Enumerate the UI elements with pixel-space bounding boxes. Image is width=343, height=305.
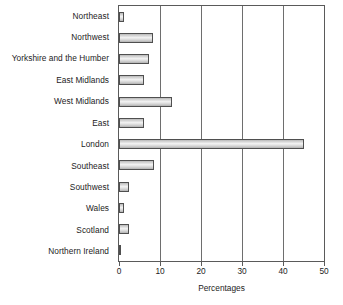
bar xyxy=(119,75,144,85)
category-label: London xyxy=(0,134,114,155)
value-axis: 01020304050 xyxy=(118,262,325,282)
category-label: Southeast xyxy=(0,155,114,176)
bar-row xyxy=(119,134,324,155)
bar-row xyxy=(119,219,324,240)
bar xyxy=(119,97,172,107)
bar xyxy=(119,203,124,213)
category-label: Yorkshire and the Humber xyxy=(0,48,114,69)
bar-row xyxy=(119,155,324,176)
category-axis: Northeast Northwest Yorkshire and the Hu… xyxy=(0,5,114,262)
bar-row xyxy=(119,197,324,218)
bars-layer xyxy=(119,6,324,261)
bar xyxy=(119,245,121,255)
plot-area xyxy=(118,5,325,262)
axis-tick-label: 40 xyxy=(278,267,287,275)
bar xyxy=(119,224,129,234)
category-label: Southwest xyxy=(0,176,114,197)
bar xyxy=(119,160,154,170)
axis-tick-label: 50 xyxy=(319,267,328,275)
category-label: East xyxy=(0,112,114,133)
bar-row xyxy=(119,27,324,48)
bar-row xyxy=(119,176,324,197)
bar-row xyxy=(119,240,324,261)
category-label: Scotland xyxy=(0,219,114,240)
category-label: Northwest xyxy=(0,26,114,47)
bar xyxy=(119,33,153,43)
bar xyxy=(119,54,149,64)
bar xyxy=(119,12,124,22)
category-label: West Midlands xyxy=(0,91,114,112)
axis-tick-label: 20 xyxy=(196,267,205,275)
bar-row xyxy=(119,91,324,112)
category-label: Wales xyxy=(0,198,114,219)
bar-chart: Northeast Northwest Yorkshire and the Hu… xyxy=(0,0,343,305)
bar-row xyxy=(119,112,324,133)
x-axis-title: Percentages xyxy=(118,284,325,292)
category-label: East Midlands xyxy=(0,69,114,90)
bar xyxy=(119,139,304,149)
axis-tick-label: 30 xyxy=(237,267,246,275)
bar-row xyxy=(119,6,324,27)
bar xyxy=(119,182,129,192)
bar-row xyxy=(119,70,324,91)
axis-tick-label: 10 xyxy=(155,267,164,275)
axis-tick-label: 0 xyxy=(117,267,122,275)
category-label: Northeast xyxy=(0,5,114,26)
bar-row xyxy=(119,49,324,70)
category-label: Northern Ireland xyxy=(0,241,114,262)
bar xyxy=(119,118,144,128)
